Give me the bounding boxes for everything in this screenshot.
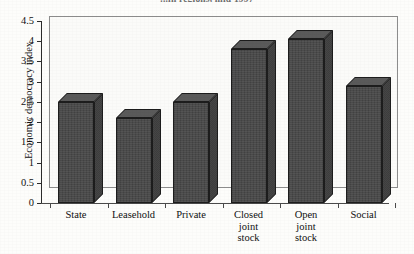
category-label: Social [334, 209, 394, 221]
x-tick [165, 203, 166, 208]
y-tick-label: 1.5 [21, 137, 34, 148]
bar-side-face [382, 77, 391, 203]
bar-column [231, 49, 267, 203]
bar-side-face [209, 93, 218, 203]
x-tick [338, 203, 339, 208]
chart-title: ...in regions, mid 1997 [0, 0, 414, 2]
x-tick [280, 203, 281, 208]
y-tick: 4 [37, 41, 42, 42]
y-tick: 3 [37, 82, 42, 83]
bar-front-face [116, 118, 152, 203]
category-label: State [46, 209, 106, 221]
y-tick-label: 4 [29, 36, 34, 47]
y-tick-label: 0 [29, 198, 34, 209]
x-tick [50, 203, 51, 208]
bar-side-face [152, 109, 161, 203]
bar-column [346, 86, 382, 203]
y-tick: 1.5 [37, 142, 42, 143]
bar-side-face [324, 30, 333, 203]
bar-front-face [231, 49, 267, 203]
y-tick-label: 3 [29, 76, 34, 87]
y-tick-label: 4.5 [21, 16, 34, 27]
bar-front-face [346, 86, 382, 203]
y-tick-label: 1 [29, 157, 34, 168]
category-label: Open joint stock [276, 209, 336, 244]
category-label: Leasehold [104, 209, 164, 221]
y-tick: 0.5 [37, 183, 42, 184]
x-tick [395, 203, 396, 208]
bar-front-face [58, 102, 94, 203]
bar-column [288, 39, 324, 203]
bar-front-face [173, 102, 209, 203]
bar-column [173, 102, 209, 203]
bar-side-face [267, 40, 276, 203]
category-label: Private [161, 209, 221, 221]
bar-column [116, 118, 152, 203]
y-tick-label: 0.5 [21, 178, 34, 189]
y-tick-label: 2.5 [21, 97, 34, 108]
x-tick [108, 203, 109, 208]
y-tick: 1 [37, 163, 42, 164]
bar-side-face [94, 93, 103, 203]
y-axis-line [41, 22, 42, 204]
bar-column [58, 102, 94, 203]
category-label: Closed joint stock [219, 209, 279, 244]
bar-front-face [288, 39, 324, 203]
y-tick: 2 [37, 122, 42, 123]
y-tick: 3.5 [37, 61, 42, 62]
y-tick-label: 2 [29, 117, 34, 128]
y-tick: 4.5 [37, 21, 42, 22]
x-tick [223, 203, 224, 208]
chart-plot-area: 00.511.522.533.544.5 [41, 16, 398, 204]
y-tick: 2.5 [37, 102, 42, 103]
y-tick-label: 3.5 [21, 56, 34, 67]
